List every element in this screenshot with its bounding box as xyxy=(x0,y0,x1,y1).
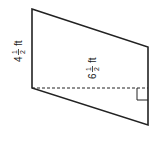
height-label: 6 1 2 ft xyxy=(85,57,100,79)
parallelogram xyxy=(32,9,148,125)
height-label-denominator: 2 xyxy=(93,67,100,71)
right-angle-marker xyxy=(137,88,148,100)
side-label-unit: ft xyxy=(13,40,24,46)
parallelogram-diagram: 4 1 2 ft 6 1 2 ft xyxy=(0,0,162,141)
height-label-numerator: 1 xyxy=(85,67,92,71)
side-label-numerator: 1 xyxy=(11,50,18,54)
height-label-unit: ft xyxy=(87,57,98,63)
side-label-denominator: 2 xyxy=(19,50,26,54)
side-label: 4 1 2 ft xyxy=(11,40,26,62)
side-label-whole: 4 xyxy=(13,56,24,62)
height-label-whole: 6 xyxy=(87,73,98,79)
